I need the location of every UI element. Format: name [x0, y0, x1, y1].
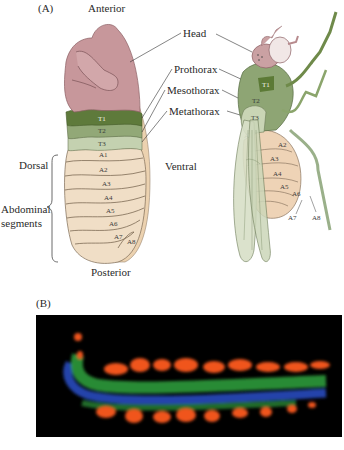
svg-text:A4: A4 — [273, 170, 282, 178]
panel-a-illustration: A1 A2 A3 A4 A5 A6 A7 A8 T3 T2 T1 — [0, 0, 344, 300]
fluorescent-embryo-image — [36, 315, 342, 437]
svg-text:T1: T1 — [262, 81, 270, 89]
svg-text:A8: A8 — [127, 238, 136, 246]
svg-text:A5: A5 — [106, 207, 115, 215]
svg-text:A6: A6 — [292, 190, 301, 198]
embryo-stripes — [36, 315, 342, 437]
svg-text:A7: A7 — [114, 233, 123, 241]
svg-text:A4: A4 — [104, 194, 113, 202]
panel-b-label: (B) — [36, 297, 51, 309]
svg-text:T2: T2 — [252, 97, 260, 105]
svg-text:T1: T1 — [98, 115, 106, 123]
svg-text:A2: A2 — [99, 166, 108, 174]
svg-text:A7: A7 — [288, 214, 297, 222]
svg-text:A2: A2 — [278, 141, 287, 149]
svg-text:T2: T2 — [98, 127, 106, 135]
svg-text:A3: A3 — [102, 180, 111, 188]
embryo-drawing: A1 A2 A3 A4 A5 A6 A7 A8 T3 T2 T1 — [47, 24, 256, 263]
svg-text:A5: A5 — [280, 183, 289, 191]
svg-text:A1: A1 — [99, 151, 108, 159]
adult-fly-drawing: A2 A3 A4 A5 A6 A7 A8 T1 T2 T3 A1 A1 — [234, 12, 336, 262]
svg-text:A8: A8 — [312, 214, 321, 222]
svg-text:A3: A3 — [270, 155, 279, 163]
svg-text:T3: T3 — [98, 140, 106, 148]
svg-text:A6: A6 — [109, 220, 118, 228]
